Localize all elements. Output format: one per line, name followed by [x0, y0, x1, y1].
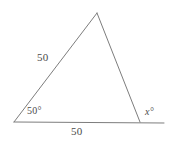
- triangle-base-with-extension: [14, 122, 164, 123]
- side-length-label-bottom: 50: [71, 126, 82, 137]
- angle-label-left: 50°: [27, 106, 42, 116]
- triangle-side-right: [97, 13, 140, 122]
- angle-label-right-unknown: x°: [145, 107, 154, 117]
- side-length-label-left: 50: [37, 52, 48, 63]
- diagram-canvas: [0, 0, 173, 145]
- triangle-diagram: 50 50 50° x°: [0, 0, 173, 145]
